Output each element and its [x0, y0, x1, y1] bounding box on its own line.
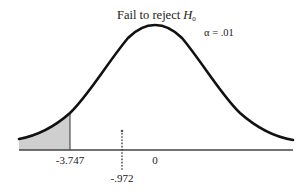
title-subscript: 0 [192, 15, 196, 23]
alpha-annotation: α = .01 [204, 27, 234, 38]
title-main: Fail to reject [117, 8, 183, 22]
hypothesis-test-chart: -3.747 0 -.972 Fail to reject H0 α = .01 [0, 0, 306, 192]
test-statistic-marker [121, 130, 124, 133]
chart-title: Fail to reject H0 [117, 8, 196, 23]
center-label: 0 [152, 154, 158, 166]
critical-value-label: -3.747 [56, 154, 85, 166]
test-statistic-label: -.972 [111, 172, 134, 184]
